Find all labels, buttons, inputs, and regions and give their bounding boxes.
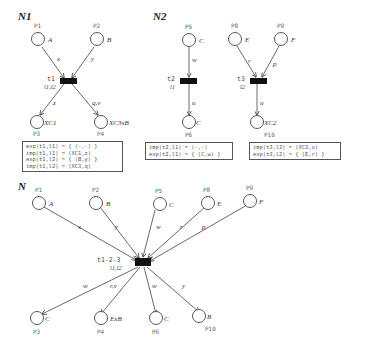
- arc-r: [148, 207, 205, 258]
- transition-labels: l1: [170, 83, 175, 90]
- transition-t2[interactable]: [180, 78, 197, 84]
- place-p10[interactable]: [251, 116, 264, 129]
- place-color: C: [45, 315, 50, 323]
- place-p9[interactable]: [275, 33, 288, 46]
- net-title-n2: N2: [152, 10, 167, 22]
- arc-p: [150, 205, 247, 261]
- arc-x: [44, 207, 136, 260]
- place-id: P8: [231, 22, 239, 29]
- arc-label: x: [56, 55, 61, 63]
- petri-net-diagram: N1 P1 A P2 B P3 XC1 P4 XC3xB t1 l1,l2 x …: [0, 0, 365, 354]
- arc-label: y: [181, 282, 186, 290]
- n2-t3-annotation-box: imp(t3,l2) = (XC2,u) exp(t3,l2) = { (E,r…: [249, 142, 341, 160]
- place-p1[interactable]: [33, 197, 46, 210]
- place-id: P3: [33, 328, 41, 335]
- transition-name: t1: [47, 75, 55, 83]
- net-n: N P1 A P2 B P5 C P8 E P9 F P3 C P4: [17, 180, 264, 335]
- transition-labels: l1,l2: [110, 264, 122, 271]
- arc-w: [143, 210, 155, 257]
- n2-t2-annotation-box: imp(t2,l1) = (-,-) exp(t2,l1) = { (C,w) …: [145, 142, 233, 160]
- arc-label: p: [272, 60, 277, 68]
- arc-label: u: [260, 99, 264, 107]
- annotation-line: imp(t3,l2) = (XC2,u): [253, 144, 337, 151]
- annotation-line: exp(t1,l2) = { (B,y) }: [26, 156, 119, 163]
- arc-label: y: [90, 55, 95, 63]
- annotation-line: imp(t2,l1) = (-,-): [149, 144, 229, 151]
- place-color: E: [216, 200, 222, 208]
- place-p6[interactable]: [150, 312, 163, 325]
- arc-label: w: [156, 223, 161, 231]
- net-title-n1: N1: [17, 10, 31, 22]
- place-color: XC3xB: [108, 119, 130, 127]
- place-p4[interactable]: [95, 312, 108, 325]
- transition-t1-2-3[interactable]: [135, 258, 151, 266]
- place-id: P1: [34, 22, 42, 29]
- place-p6[interactable]: [183, 116, 196, 129]
- place-color: XC1: [43, 119, 56, 127]
- arc-w: [144, 267, 156, 314]
- place-color: C: [199, 37, 204, 45]
- transition-t1[interactable]: [60, 78, 77, 84]
- net-title-n: N: [17, 180, 27, 192]
- place-id: P5: [155, 187, 163, 194]
- place-color: ExB: [109, 315, 122, 323]
- arc-label: x: [77, 223, 82, 231]
- arc-rv: [101, 267, 140, 314]
- arc-label: r: [248, 57, 251, 65]
- arc-w: [42, 267, 138, 314]
- arc-label: r,v: [110, 282, 118, 290]
- place-color: F: [258, 198, 264, 206]
- place-color: C: [164, 315, 169, 323]
- place-color: B: [106, 200, 111, 208]
- place-color: C: [196, 119, 201, 127]
- place-p5[interactable]: [183, 34, 196, 47]
- place-color: E: [244, 36, 250, 44]
- place-p4[interactable]: [95, 116, 108, 129]
- place-id: P9: [246, 184, 254, 191]
- arc-label: w: [192, 56, 197, 64]
- arc-label: u: [192, 99, 196, 107]
- arc-label: y: [114, 223, 119, 231]
- place-id: P9: [277, 22, 285, 29]
- place-p10[interactable]: [193, 310, 206, 323]
- place-p2[interactable]: [90, 197, 103, 210]
- arc-label: w: [83, 282, 88, 290]
- place-p8[interactable]: [202, 197, 215, 210]
- place-color: A: [48, 200, 54, 208]
- transition-t3[interactable]: [250, 78, 267, 84]
- place-p5[interactable]: [154, 198, 167, 211]
- place-p3[interactable]: [31, 116, 44, 129]
- transition-labels: l1,l2: [44, 83, 56, 90]
- place-p3[interactable]: [31, 312, 44, 325]
- place-p9[interactable]: [244, 195, 257, 208]
- place-id: P1: [35, 186, 43, 193]
- annotation-line: imp(t1,l1) = (XC1,z): [26, 150, 119, 157]
- annotation-line: exp(t2,l1) = { (C,w) }: [149, 151, 229, 158]
- place-color: A: [47, 36, 53, 44]
- place-id: P4: [97, 328, 105, 335]
- place-id: P6: [152, 328, 160, 335]
- place-p2[interactable]: [91, 33, 104, 46]
- place-id: P2: [93, 22, 101, 29]
- place-id: P10: [264, 131, 275, 138]
- arc-label: q,v: [92, 99, 101, 107]
- place-color: XC2: [263, 119, 277, 127]
- place-id: P3: [33, 130, 41, 137]
- arc-r: [237, 46, 256, 77]
- arc-label: p: [201, 223, 206, 231]
- place-p8[interactable]: [229, 33, 242, 46]
- transition-labels: l2: [240, 83, 246, 90]
- place-color: F: [290, 36, 296, 44]
- place-color: B: [207, 313, 212, 321]
- transition-name: t2: [167, 75, 175, 83]
- net-n1: N1 P1 A P2 B P3 XC1 P4 XC3xB t1 l1,l2 x …: [17, 10, 130, 137]
- transition-name: t1-2-3: [97, 256, 121, 264]
- annotation-line: exp(t3,l2) = { (E,r) }: [253, 151, 337, 158]
- net-n2: N2 P5 C P6 C t2 l1 w u P8 E P9 F P10 XC2…: [152, 10, 296, 138]
- arc-label: z: [52, 99, 56, 107]
- place-p1[interactable]: [32, 33, 45, 46]
- place-id: P6: [185, 131, 193, 138]
- arc-label: r: [180, 223, 183, 231]
- annotation-line: exp(t1,l1) = { (-,-) }: [26, 143, 119, 150]
- arc-x: [42, 47, 64, 78]
